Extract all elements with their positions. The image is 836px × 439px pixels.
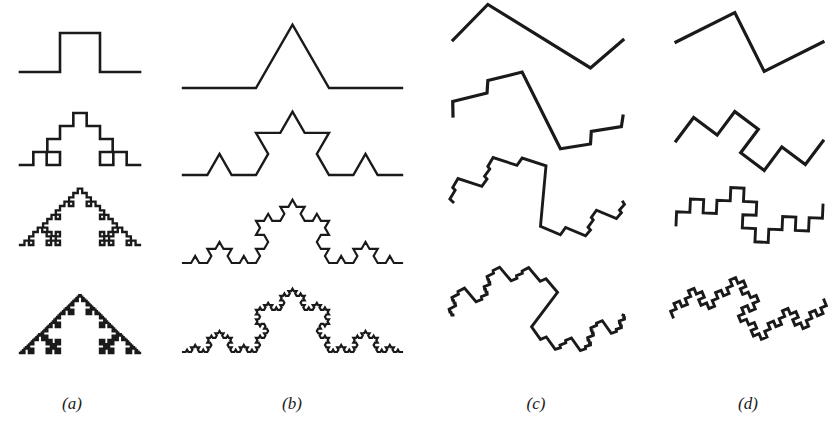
caption-label-c: (c) [527, 394, 546, 414]
fractal-curve-d-level-2 [676, 112, 823, 171]
fractal-curve-c-level-1 [453, 4, 623, 67]
fractal-curve-d-level-4 [671, 278, 827, 340]
fractal-curve-b-level-1 [183, 25, 402, 88]
fractal-curve-b-level-3 [183, 200, 402, 263]
column-b-koch-curve [183, 25, 402, 352]
fractal-figure [0, 0, 836, 439]
fractal-curve-d-level-1 [676, 13, 823, 72]
fractal-curve-a-level-1 [20, 33, 140, 72]
fractal-curve-a-level-4 [20, 295, 140, 353]
fractal-curve-a-level-3 [20, 189, 140, 245]
fractal-curve-b-level-2 [183, 112, 402, 175]
caption-label-a: (a) [62, 394, 82, 414]
column-c-zigzag-curve [449, 4, 624, 350]
column-a-square-curve [20, 33, 140, 353]
fractal-curve-b-level-4 [183, 289, 402, 352]
fractal-curve-c-level-4 [449, 267, 624, 350]
fractal-curve-d-level-3 [676, 188, 823, 243]
column-d-z-curve [671, 13, 827, 340]
fractal-curve-a-level-2 [20, 113, 140, 165]
fractal-curve-c-level-2 [453, 72, 623, 149]
caption-label-b: (b) [282, 394, 302, 414]
fractal-curve-c-level-3 [450, 158, 625, 236]
caption-label-d: (d) [738, 394, 758, 414]
